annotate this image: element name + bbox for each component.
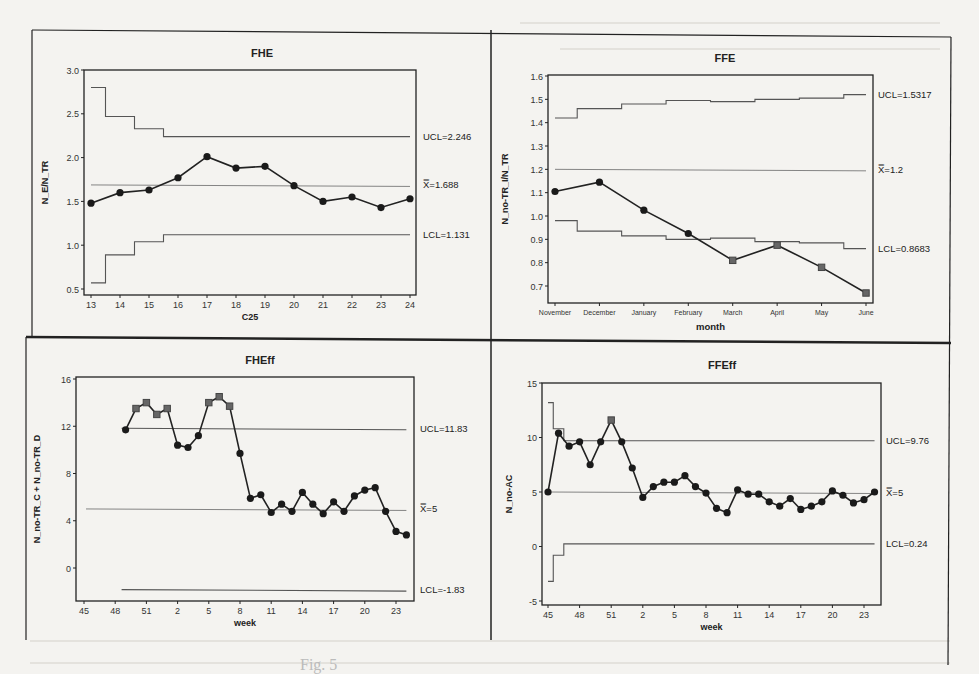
x-tick-label: 14 xyxy=(115,300,125,310)
x-tick-label: 48 xyxy=(110,606,120,616)
y-tick-label: 2.0 xyxy=(66,153,79,163)
y-tick-label: 1.0 xyxy=(66,241,79,251)
lcl-label: LCL=0.8683 xyxy=(878,243,930,254)
x-tick-label: 18 xyxy=(231,300,241,310)
data-point-flagged xyxy=(730,257,736,263)
center-line xyxy=(86,509,406,511)
data-point xyxy=(257,491,264,498)
data-point xyxy=(319,198,326,205)
data-point xyxy=(203,153,210,160)
data-series-line xyxy=(91,157,410,208)
x-tick-label: 45 xyxy=(543,610,553,620)
x-tick-label: 8 xyxy=(703,610,708,620)
y-tick-label: 1.1 xyxy=(530,188,543,198)
x-tick-label: April xyxy=(770,309,784,317)
center-label: X̿=5 xyxy=(420,503,437,514)
data-point xyxy=(860,496,867,503)
data-point xyxy=(692,483,699,490)
data-point-flagged xyxy=(216,394,222,400)
x-tick-label: 2 xyxy=(175,606,180,616)
ucl-label: UCL=1.5317 xyxy=(878,89,932,100)
figure-frame xyxy=(26,30,951,665)
data-point xyxy=(330,498,337,505)
lcl-label: LCL=-1.83 xyxy=(420,584,465,595)
data-point-flagged xyxy=(863,290,869,296)
y-tick-label: 0.7 xyxy=(530,282,543,292)
data-point xyxy=(618,438,625,445)
data-point xyxy=(723,509,730,516)
x-tick-label: 20 xyxy=(289,300,299,310)
data-point-flagged xyxy=(774,242,780,248)
x-tick-label: 11 xyxy=(267,606,276,616)
lcl-label: LCL=0.24 xyxy=(886,538,927,549)
data-point-flagged xyxy=(226,403,232,409)
center-line xyxy=(548,492,875,494)
data-point xyxy=(320,510,327,517)
data-point xyxy=(288,508,295,515)
x-tick-label: 22 xyxy=(347,300,357,310)
data-point xyxy=(702,489,709,496)
data-point xyxy=(660,479,667,486)
chart-title: FHE xyxy=(251,47,273,59)
data-point xyxy=(382,508,389,515)
data-point xyxy=(372,484,379,491)
data-point xyxy=(587,461,594,468)
y-tick-label: 1.5 xyxy=(530,95,543,105)
data-point xyxy=(808,503,815,510)
y-tick-label: 3.0 xyxy=(66,66,79,76)
data-point xyxy=(309,501,316,508)
data-point xyxy=(116,189,123,196)
x-tick-label: 16 xyxy=(173,300,183,310)
x-axis-label: week xyxy=(233,618,257,628)
data-point xyxy=(406,195,413,202)
x-tick-label: February xyxy=(674,309,703,317)
y-tick-label: 1.3 xyxy=(530,142,543,152)
x-tick-label: 11 xyxy=(733,610,742,620)
data-point xyxy=(268,509,275,516)
x-tick-label: 24 xyxy=(405,300,415,310)
chart-title: FHEff xyxy=(245,354,275,366)
data-point xyxy=(232,165,239,172)
y-axis-label: N_no-TR_I/N_TR xyxy=(500,153,510,225)
center-line xyxy=(555,169,866,171)
data-point xyxy=(87,200,94,207)
data-point xyxy=(745,491,752,498)
data-point xyxy=(713,505,720,512)
lcl-line xyxy=(91,235,410,283)
x-tick-label: March xyxy=(723,309,743,316)
x-axis-label: month xyxy=(696,321,725,332)
y-tick-label: 0.5 xyxy=(66,285,79,295)
x-axis-label: week xyxy=(699,622,723,632)
x-tick-label: January xyxy=(631,309,656,317)
x-tick-label: 20 xyxy=(360,606,370,616)
x-tick-label: 23 xyxy=(391,606,401,616)
lcl-line xyxy=(122,590,407,592)
y-tick-label: 0 xyxy=(66,564,71,574)
x-tick-label: 19 xyxy=(260,300,270,310)
data-point xyxy=(597,438,604,445)
x-tick-label: 13 xyxy=(86,300,96,310)
y-axis-label: N_no-AC xyxy=(504,474,514,513)
data-point-flagged xyxy=(154,411,160,417)
plot-area xyxy=(84,70,416,295)
lcl-line xyxy=(548,544,875,581)
y-tick-label: 1.5 xyxy=(66,197,79,207)
data-point-flagged xyxy=(206,399,212,405)
x-tick-label: 17 xyxy=(796,610,806,620)
data-point xyxy=(236,450,243,457)
x-tick-label: 45 xyxy=(79,606,89,616)
y-tick-label: 5 xyxy=(532,488,537,498)
y-tick-label: 15 xyxy=(527,379,537,389)
data-point xyxy=(261,163,268,170)
data-point-flagged xyxy=(133,405,139,411)
data-series-line xyxy=(548,420,875,513)
data-point xyxy=(377,204,384,211)
lcl-line xyxy=(555,221,866,249)
data-point xyxy=(392,528,399,535)
data-point xyxy=(850,499,857,506)
chart-title: FFE xyxy=(715,52,736,64)
data-point xyxy=(829,487,836,494)
y-tick-label: 0.8 xyxy=(530,258,543,268)
x-tick-label: 5 xyxy=(206,606,211,616)
